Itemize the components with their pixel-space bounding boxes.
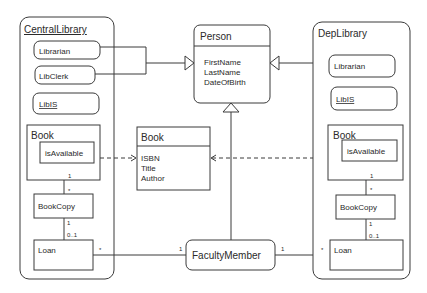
dep-library-package[interactable]: DepLibrary Librarian LibIS Book isAvaila… (313, 22, 410, 279)
dependency-dep-to-book (211, 155, 327, 161)
uml-diagram: CentralLibrary Librarian LibClerk LibIS … (0, 0, 427, 293)
central-loan-node[interactable] (34, 240, 93, 270)
generalization-faculty-to-person (223, 103, 239, 240)
dep-book-label: Book (333, 130, 357, 141)
central-librarian-label: Librarian (39, 47, 70, 56)
central-libclerk-label: LibClerk (39, 72, 69, 81)
dep-isavailable-label: isAvailable (347, 147, 386, 156)
faculty-member-title: FacultyMember (192, 250, 262, 261)
inheritance-arrow-icon (185, 56, 194, 70)
faculty-mult-left: 1 (179, 246, 183, 252)
inheritance-arrow-icon (270, 56, 279, 70)
dep-mult-bookcopy-bottom: 0..1 (369, 233, 380, 239)
dep-bookcopy-label: BookCopy (340, 203, 377, 212)
central-isavailable-label: isAvailable (45, 149, 84, 158)
dep-loan-node[interactable] (330, 240, 403, 270)
dep-librarian-label: Librarian (334, 62, 365, 71)
book-class[interactable]: Book ISBN Title Author (137, 127, 210, 190)
faculty-member-class[interactable]: FacultyMember 1 1 (179, 240, 285, 270)
dep-loan-label: Loan (334, 246, 352, 255)
central-book-label: Book (31, 130, 55, 141)
person-attr-lastname: LastName (204, 68, 241, 77)
person-title: Person (200, 31, 232, 42)
book-title: Book (141, 132, 165, 143)
book-attr-author: Author (141, 174, 165, 183)
book-attr-isbn: ISBN (141, 154, 160, 163)
dep-libis-label: LibIS (336, 95, 354, 104)
person-class[interactable]: Person FirstName LastName DateOfBirth (194, 25, 270, 103)
faculty-mult-right: 1 (281, 246, 285, 252)
person-attr-firstname: FirstName (204, 58, 241, 67)
central-bookcopy-label: BookCopy (38, 202, 75, 211)
book-attr-title: Title (141, 164, 156, 173)
central-loan-label: Loan (38, 246, 56, 255)
inheritance-arrow-icon (223, 103, 239, 112)
central-libis-label: LibIS (39, 100, 57, 109)
dep-library-title: DepLibrary (318, 28, 367, 39)
central-mult-bookcopy-bottom: 0..1 (67, 232, 78, 238)
central-library-package[interactable]: CentralLibrary Librarian LibClerk LibIS … (20, 17, 114, 279)
central-library-title: CentralLibrary (24, 24, 87, 35)
person-attr-dateofbirth: DateOfBirth (204, 78, 246, 87)
